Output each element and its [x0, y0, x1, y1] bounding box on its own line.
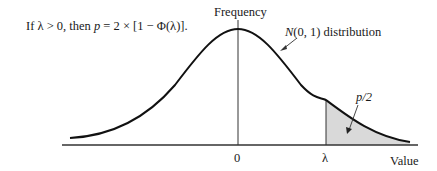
- formula-text: If λ > 0, then p = 2 × [1 − Φ(λ)].: [26, 20, 188, 33]
- x-axis-label: Value: [390, 155, 418, 168]
- formula-rest: = 2 × [1 − Φ(λ)].: [100, 19, 187, 33]
- shaded-tail-area: [326, 100, 410, 145]
- lambda-tick-label: λ: [322, 152, 328, 165]
- y-axis-label: Frequency: [214, 6, 267, 19]
- zero-tick-label: 0: [234, 152, 240, 165]
- curve-label: N(0, 1) distribution: [285, 26, 381, 39]
- curve-label-params: (0, 1) distribution: [293, 25, 381, 39]
- formula-prefix: If λ > 0, then: [26, 19, 94, 33]
- curve-arrowhead-icon: [280, 45, 287, 51]
- area-label: p/2: [356, 91, 372, 104]
